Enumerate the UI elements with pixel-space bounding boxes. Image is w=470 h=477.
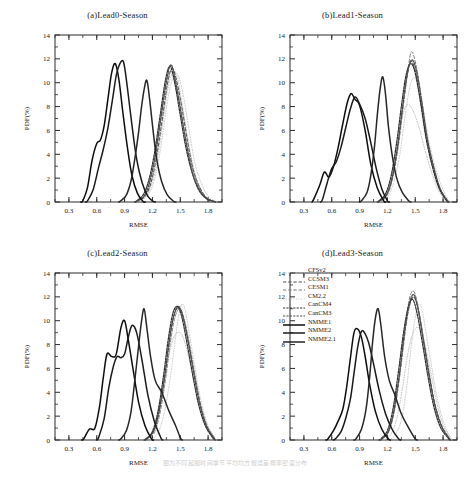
svg-text:6: 6 (282, 127, 286, 135)
svg-text:1.2: 1.2 (148, 207, 157, 215)
legend-item-label: CanCM3 (308, 309, 331, 318)
svg-text:PDF(%): PDF(%) (23, 106, 31, 130)
figure-root: (a)Lead0-Season 024681012140.30.60.91.21… (0, 0, 470, 477)
svg-text:14: 14 (43, 32, 51, 40)
svg-text:4: 4 (282, 389, 286, 397)
svg-text:0.3: 0.3 (300, 445, 309, 453)
panel-lead3-season: (d)Lead3-Season 024681012140.30.60.91.21… (235, 238, 470, 476)
svg-text:1.8: 1.8 (439, 207, 448, 215)
svg-text:12: 12 (278, 55, 286, 63)
panel-lead1-season: (b)Lead1-Season 024681012140.30.60.91.21… (235, 0, 470, 238)
svg-text:1.2: 1.2 (148, 445, 157, 453)
svg-text:RMSE: RMSE (364, 221, 383, 229)
svg-text:4: 4 (47, 389, 51, 397)
svg-text:0: 0 (282, 199, 286, 207)
svg-text:0.3: 0.3 (65, 445, 74, 453)
svg-text:2: 2 (47, 413, 51, 421)
svg-text:1.2: 1.2 (383, 207, 392, 215)
svg-text:14: 14 (43, 270, 51, 278)
plot-area-d: 024681012140.30.60.91.21.51.8RMSEPDF(%) (235, 238, 470, 476)
legend-item-label: NMME2.1 (308, 335, 336, 344)
svg-text:8: 8 (282, 103, 286, 111)
plot-area-c: 024681012140.30.60.91.21.51.8RMSEPDF(%) (0, 238, 235, 476)
svg-text:4: 4 (282, 151, 286, 159)
svg-text:1.5: 1.5 (176, 207, 185, 215)
svg-text:6: 6 (47, 365, 51, 373)
legend-item-label: CanCM4 (308, 300, 331, 309)
density-curve (384, 327, 453, 440)
svg-text:2: 2 (282, 413, 286, 421)
svg-text:0.9: 0.9 (355, 207, 364, 215)
plot-area-b: 024681012140.30.60.91.21.51.8RMSEPDF(%) (235, 0, 470, 238)
svg-text:1.2: 1.2 (383, 445, 392, 453)
legend-item-label: CESM1 (308, 283, 329, 292)
svg-text:0: 0 (282, 437, 286, 445)
svg-text:6: 6 (47, 127, 51, 135)
density-curve (381, 291, 451, 440)
svg-text:1.8: 1.8 (204, 207, 213, 215)
svg-text:1.8: 1.8 (204, 445, 213, 453)
svg-text:0.6: 0.6 (92, 445, 101, 453)
svg-text:0.9: 0.9 (120, 445, 129, 453)
density-curve (82, 320, 154, 440)
svg-text:12: 12 (43, 55, 51, 63)
svg-text:0.9: 0.9 (120, 207, 129, 215)
svg-text:PDF(%): PDF(%) (258, 106, 266, 130)
svg-text:1.5: 1.5 (411, 207, 420, 215)
svg-text:8: 8 (47, 103, 51, 111)
legend-item-label: CCSM3 (308, 275, 329, 284)
density-curve (376, 105, 448, 202)
svg-text:0: 0 (47, 437, 51, 445)
legend-item-label: CM2.2 (308, 292, 326, 301)
svg-text:0.6: 0.6 (327, 445, 336, 453)
svg-text:0.9: 0.9 (355, 445, 364, 453)
svg-text:0.3: 0.3 (65, 207, 74, 215)
svg-text:0: 0 (47, 199, 51, 207)
svg-text:1.5: 1.5 (176, 445, 185, 453)
legend: CFSv2CCSM3CESM1CM2.2CanCM4CanCM3NMME1NMM… (283, 266, 336, 343)
svg-text:0.6: 0.6 (327, 207, 336, 215)
svg-text:PDF(%): PDF(%) (23, 344, 31, 368)
svg-text:6: 6 (282, 365, 286, 373)
svg-text:4: 4 (47, 151, 51, 159)
svg-text:PDF(%): PDF(%) (258, 344, 266, 368)
density-curve (320, 97, 389, 202)
svg-text:8: 8 (47, 341, 51, 349)
svg-text:RMSE: RMSE (129, 221, 148, 229)
legend-item: CFSv2 (283, 266, 336, 275)
svg-text:2: 2 (282, 175, 286, 183)
density-curve (143, 332, 214, 440)
plot-area-a: 024681012140.30.60.91.21.51.8RMSEPDF(%) (0, 0, 235, 238)
legend-item-label: CFSv2 (308, 266, 326, 275)
svg-text:10: 10 (278, 79, 286, 87)
density-curve (135, 66, 216, 202)
panel-lead2-season: (c)Lead2-Season 024681012140.30.60.91.21… (0, 238, 235, 476)
svg-text:0.3: 0.3 (300, 207, 309, 215)
legend-item-label: NMME1 (308, 318, 331, 327)
figure-caption: 图为不同起报时间季节平均均方根误差概率密度分布 (0, 458, 470, 474)
legend-item-label: NMME2 (308, 326, 331, 335)
svg-text:1.5: 1.5 (411, 445, 420, 453)
density-curve (85, 60, 155, 202)
svg-text:10: 10 (43, 79, 51, 87)
density-curve (119, 80, 176, 202)
density-curve (379, 52, 450, 203)
svg-text:0.6: 0.6 (92, 207, 101, 215)
svg-text:1.8: 1.8 (439, 445, 448, 453)
svg-text:10: 10 (43, 317, 51, 325)
density-curve (97, 325, 163, 440)
svg-text:2: 2 (47, 175, 51, 183)
svg-text:14: 14 (278, 32, 286, 40)
density-curve (81, 63, 145, 202)
svg-text:12: 12 (43, 293, 51, 301)
panel-lead0-season: (a)Lead0-Season 024681012140.30.60.91.21… (0, 0, 235, 238)
